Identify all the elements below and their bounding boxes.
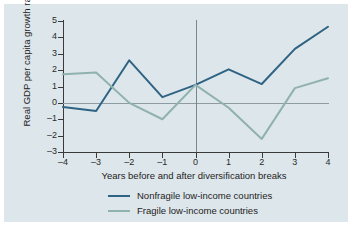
x-tick-label: –4 <box>53 157 73 167</box>
y-tick-label: 0 <box>39 98 57 107</box>
legend-label-nonfragile: Nonfragile low-income countries <box>137 190 272 201</box>
y-tick-label: 4 <box>39 32 57 41</box>
x-tick-label: 0 <box>186 157 206 167</box>
x-tick-label: 4 <box>318 157 338 167</box>
legend-item-fragile: Fragile low-income countries <box>4 203 348 218</box>
series-lines <box>63 21 328 152</box>
legend-swatch-nonfragile <box>108 195 130 197</box>
chart-legend: Nonfragile low-income countries Fragile … <box>4 188 348 218</box>
chart-figure: Real GDP per capita growth rates 543210–… <box>4 4 348 222</box>
y-tick-label: 2 <box>39 65 57 74</box>
y-tick-label: 3 <box>39 49 57 58</box>
x-tick-label: 1 <box>219 157 239 167</box>
x-tick-label: –2 <box>119 157 139 167</box>
y-tick-label: 1 <box>39 82 57 91</box>
y-tick-label: –3 <box>39 147 57 156</box>
legend-label-fragile: Fragile low-income countries <box>137 205 258 216</box>
series-line-fragile <box>63 73 328 139</box>
x-tick-label: 3 <box>285 157 305 167</box>
x-axis-title: Years before and after diversification b… <box>44 170 344 181</box>
x-tick-label: –3 <box>86 157 106 167</box>
x-tick-label: 2 <box>252 157 272 167</box>
y-tick-label: –1 <box>39 114 57 123</box>
legend-item-nonfragile: Nonfragile low-income countries <box>4 188 348 203</box>
x-tick-label: –1 <box>152 157 172 167</box>
y-tick-label: –2 <box>39 131 57 140</box>
legend-swatch-fragile <box>108 210 130 212</box>
y-tick-label: 5 <box>39 16 57 25</box>
y-axis-title: Real GDP per capita growth rates <box>21 0 32 127</box>
plot-area <box>63 21 328 152</box>
